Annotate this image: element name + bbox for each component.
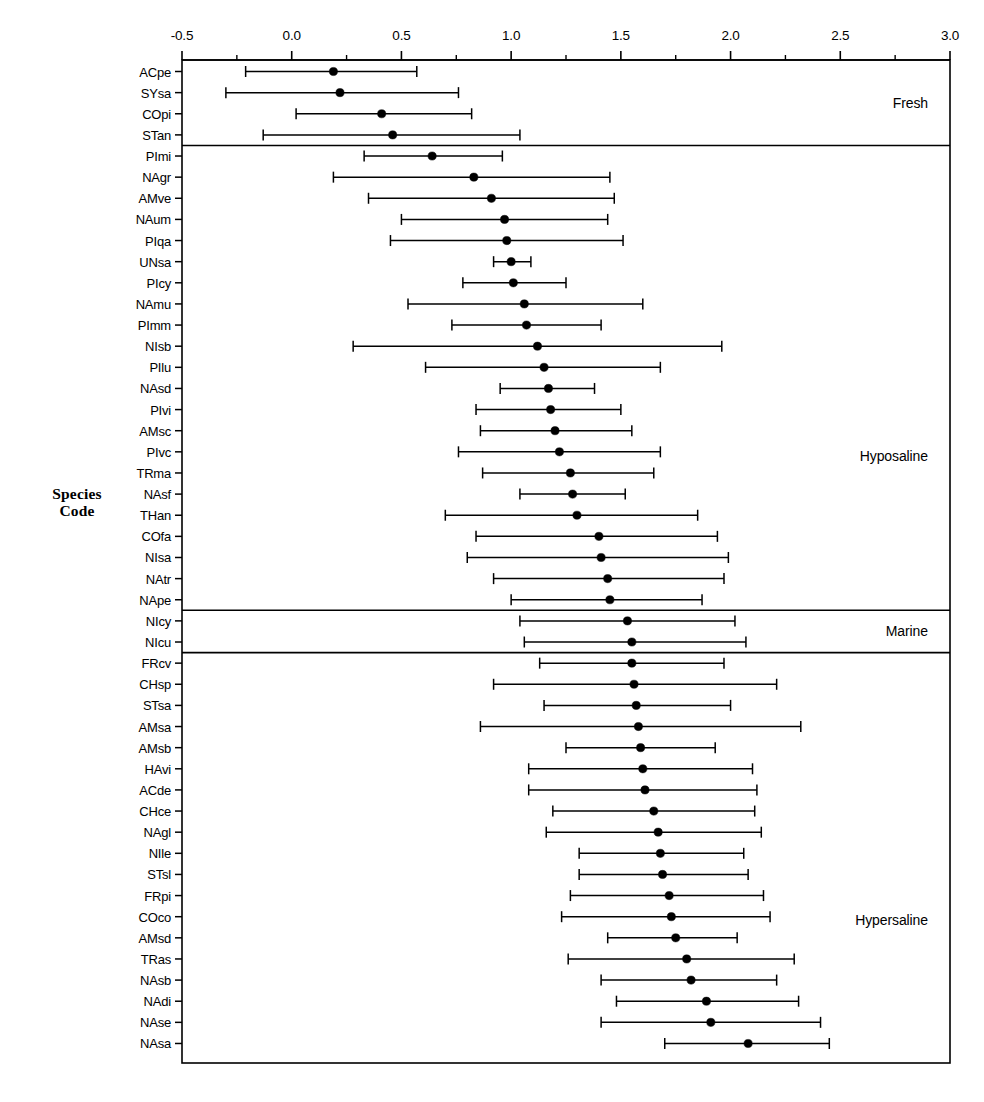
- data-point-marker: [487, 194, 495, 202]
- group-label-hypersaline: Hypersaline: [0, 912, 928, 928]
- data-point-marker: [683, 955, 691, 963]
- species-code-label: PImm: [130, 318, 171, 333]
- group-label-marine: Marine: [0, 623, 928, 639]
- x-tick-label: 0.0: [283, 28, 301, 43]
- species-code-label: NAse: [130, 1015, 171, 1030]
- species-code-label: ACde: [130, 782, 171, 797]
- species-code-label: NAsf: [130, 487, 171, 502]
- data-point-marker: [672, 934, 680, 942]
- species-code-label: AMsa: [130, 719, 171, 734]
- species-code-label: THan: [130, 508, 171, 523]
- data-point-marker: [500, 215, 508, 223]
- x-tick-label: 1.5: [612, 28, 630, 43]
- data-point-marker: [641, 786, 649, 794]
- species-code-label: AMsb: [130, 740, 171, 755]
- species-code-label: NAsd: [130, 381, 171, 396]
- data-point-marker: [329, 67, 337, 75]
- data-point-marker: [665, 891, 673, 899]
- species-code-label: STan: [130, 127, 171, 142]
- data-point-marker: [566, 469, 574, 477]
- data-point-marker: [639, 765, 647, 773]
- species-code-label: PIvi: [130, 402, 171, 417]
- species-code-label: AMsc: [130, 423, 171, 438]
- forest-plot-figure: Species Code -0.50.00.51.01.52.02.53.0AC…: [0, 0, 984, 1102]
- data-point-marker: [520, 300, 528, 308]
- data-point-marker: [630, 680, 638, 688]
- species-code-label: NIsb: [130, 339, 171, 354]
- species-code-label: STsl: [130, 867, 171, 882]
- x-tick-label: 2.0: [721, 28, 739, 43]
- data-point-marker: [389, 131, 397, 139]
- data-point-marker: [628, 659, 636, 667]
- species-code-label: NAtr: [130, 571, 171, 586]
- data-point-marker: [540, 363, 548, 371]
- data-point-marker: [744, 1039, 752, 1047]
- data-point-marker: [597, 553, 605, 561]
- data-point-marker: [573, 511, 581, 519]
- species-code-label: PIlu: [130, 360, 171, 375]
- species-code-label: FRcv: [130, 656, 171, 671]
- group-label-hyposaline: Hyposaline: [0, 448, 928, 464]
- data-point-marker: [604, 575, 612, 583]
- data-point-marker: [632, 701, 640, 709]
- species-code-label: NAmu: [130, 296, 171, 311]
- species-code-label: NIle: [130, 846, 171, 861]
- group-label-fresh: Fresh: [0, 95, 928, 111]
- data-point-marker: [595, 532, 603, 540]
- data-point-marker: [634, 722, 642, 730]
- species-code-label: PIcy: [130, 275, 171, 290]
- species-code-label: CHce: [130, 804, 171, 819]
- data-point-marker: [378, 110, 386, 118]
- species-code-label: NAgl: [130, 825, 171, 840]
- data-point-marker: [509, 279, 517, 287]
- data-point-marker: [544, 384, 552, 392]
- x-tick-label: -0.5: [171, 28, 193, 43]
- data-point-marker: [606, 596, 614, 604]
- data-point-marker: [702, 997, 710, 1005]
- species-code-label: TRas: [130, 951, 171, 966]
- data-point-marker: [656, 849, 664, 857]
- data-point-marker: [503, 236, 511, 244]
- data-point-marker: [533, 342, 541, 350]
- species-code-label: NAsb: [130, 973, 171, 988]
- x-tick-label: 3.0: [941, 28, 959, 43]
- species-code-label: NAdi: [130, 994, 171, 1009]
- x-tick-label: 1.0: [502, 28, 520, 43]
- species-code-label: TRma: [130, 465, 171, 480]
- species-code-label: HAvi: [130, 761, 171, 776]
- data-point-marker: [650, 807, 658, 815]
- species-code-label: COfa: [130, 529, 171, 544]
- data-point-marker: [522, 321, 530, 329]
- species-code-label: STsa: [130, 698, 171, 713]
- species-code-label: PImi: [130, 149, 171, 164]
- species-code-label: NAsa: [130, 1036, 171, 1051]
- species-code-label: CHsp: [130, 677, 171, 692]
- species-code-label: AMve: [130, 191, 171, 206]
- data-point-marker: [654, 828, 662, 836]
- species-code-label: NAum: [130, 212, 171, 227]
- x-tick-label: 0.5: [392, 28, 410, 43]
- species-code-label: FRpi: [130, 888, 171, 903]
- species-code-label: NApe: [130, 592, 171, 607]
- species-code-label: NAgr: [130, 170, 171, 185]
- species-code-label: PIqa: [130, 233, 171, 248]
- data-point-marker: [637, 744, 645, 752]
- data-point-marker: [547, 405, 555, 413]
- data-point-marker: [428, 152, 436, 160]
- species-code-label: NIsa: [130, 550, 171, 565]
- data-point-marker: [507, 258, 515, 266]
- data-point-marker: [551, 427, 559, 435]
- data-point-marker: [707, 1018, 715, 1026]
- data-point-marker: [470, 173, 478, 181]
- data-point-marker: [658, 870, 666, 878]
- species-code-label: ACpe: [130, 64, 171, 79]
- data-point-marker: [687, 976, 695, 984]
- data-point-marker: [568, 490, 576, 498]
- species-code-label: UNsa: [130, 254, 171, 269]
- x-tick-label: 2.5: [831, 28, 849, 43]
- species-code-label: AMsd: [130, 930, 171, 945]
